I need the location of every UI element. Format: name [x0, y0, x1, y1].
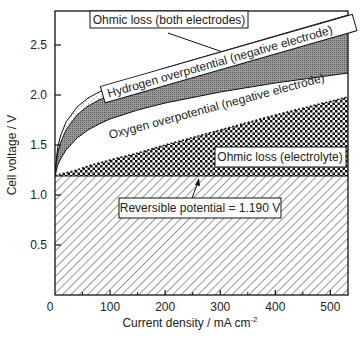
electrolysis-cell-voltage-chart: 01002003004005000.51.01.52.02.5 Ohmic lo…: [0, 0, 363, 339]
x-tick-label: 500: [320, 300, 340, 314]
y-tick-label: 2.5: [30, 38, 47, 52]
x-tick-label: 0: [47, 300, 54, 314]
chart-svg: 01002003004005000.51.01.52.02.5 Ohmic lo…: [0, 0, 363, 339]
x-tick-label: 100: [100, 300, 120, 314]
y-tick-label: 1.5: [30, 138, 47, 152]
y-tick-label: 0.5: [30, 238, 47, 252]
x-tick-label: 400: [265, 300, 285, 314]
x-axis-label: Current density / mA cm-2: [122, 315, 258, 330]
y-tick-label: 2.0: [30, 88, 47, 102]
x-tick-label: 200: [155, 300, 175, 314]
annotation-ohmic-electrolyte-text: Ohmic loss (electrolyte): [217, 150, 342, 164]
y-tick-label: 1.0: [30, 188, 47, 202]
annotation-reversible-text: Reversible potential = 1.190 V: [120, 201, 280, 215]
annotation-ohmic-electrolyte: Ohmic loss (electrolyte): [215, 147, 346, 167]
annotation-ohmic-electrodes-text: Ohmic loss (both electrodes): [93, 13, 246, 27]
x-tick-label: 300: [210, 300, 230, 314]
area-reversible-potential-1-190-v: [55, 176, 348, 295]
y-axis-label: Cell voltage / V: [5, 115, 19, 196]
